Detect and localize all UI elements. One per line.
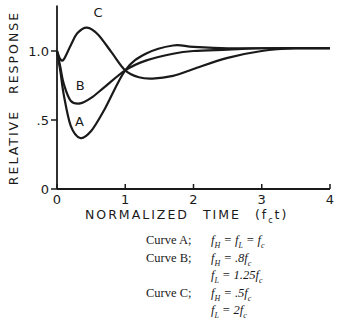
eq-a: fH = fL = fc (211, 234, 265, 252)
curve-label-c: C (93, 5, 102, 20)
x-tick-label: 0 (53, 192, 61, 207)
x-tick-label: 1 (121, 192, 129, 207)
legend-curve-a: Curve A; fH = fL = fc (146, 234, 265, 252)
eq-c1: fH = .5fc (211, 287, 251, 305)
eq-c2: fL = 2fc (146, 304, 265, 322)
legend-curve-b: Curve B; fH = .8fc (146, 252, 265, 270)
eq-b2: fL = 1.25fc (146, 269, 265, 287)
y-tick-label: 0 (41, 182, 49, 197)
legend: Curve A; fH = fL = fc Curve B; fH = .8fc… (146, 234, 265, 322)
curve-c (57, 28, 330, 79)
x-tick-label: 2 (189, 192, 197, 207)
x-axis-label: NORMALIZED TIME (fct) (85, 207, 288, 225)
y-tick-label: 1.0 (28, 44, 49, 59)
curve-b (57, 48, 330, 104)
x-tick-label: 3 (258, 192, 266, 207)
legend-curve-c: Curve C; fH = .5fc (146, 287, 265, 305)
y-axis-label: RELATIVE RESPONSE (2, 10, 24, 185)
y-tick-label: .5 (37, 113, 49, 128)
response-chart: 012340.51.0ABC (0, 0, 346, 210)
x-tick-label: 4 (326, 192, 334, 207)
eq-b1: fH = .8fc (211, 252, 251, 270)
curve-label-b: B (76, 78, 85, 93)
curve-label-a: A (75, 114, 84, 129)
